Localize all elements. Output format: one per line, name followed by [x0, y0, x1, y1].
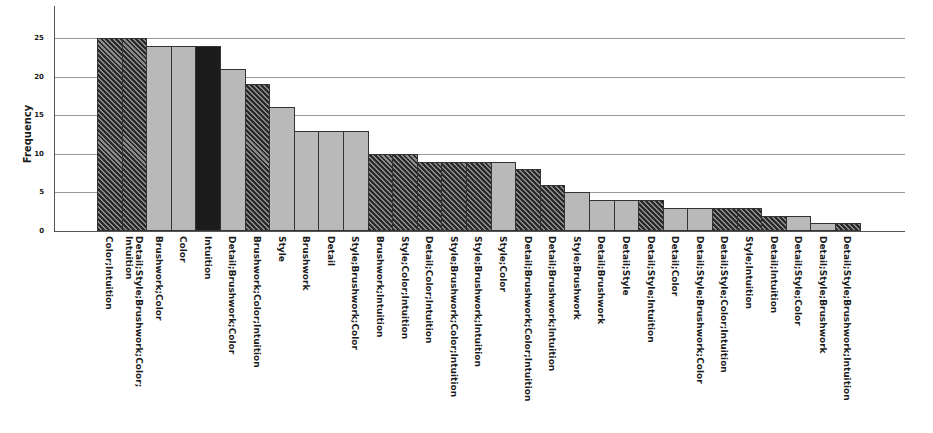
x-tick-label: Detail;Brushwork;Intuition: [547, 236, 557, 371]
x-tick-label: Style;Color;Intuition: [400, 236, 410, 339]
y-tick-label: 5: [30, 188, 44, 196]
x-tick-label: Style;Brushwork;Color: [350, 236, 360, 350]
x-tick-label: Detail;Color;Intuition: [424, 236, 434, 343]
bar: [122, 38, 148, 231]
x-tick-label: Detail;Brushwork: [596, 236, 606, 324]
x-tick-label: Detail;Brushwork;Color;Intuition: [523, 236, 533, 401]
bar: [466, 162, 492, 231]
x-tick-label: Detail;Brushwork;Color: [227, 236, 237, 354]
bar: [245, 84, 271, 231]
bar: [564, 192, 590, 231]
y-tick-label: 0: [30, 227, 44, 235]
bar: [761, 216, 787, 231]
x-tick-label: Detail;Style;Color;Intuition: [719, 236, 729, 373]
bar: [294, 131, 320, 231]
bar: [687, 208, 713, 231]
bar: [835, 223, 861, 231]
x-tick-label: Detail;Style;Color: [793, 236, 803, 326]
y-tick-label: 15: [30, 111, 44, 119]
x-tick-label: Brushwork;Intuition: [375, 236, 385, 338]
y-tick-label: 10: [30, 150, 44, 158]
x-tick-label: Style;Color: [498, 236, 508, 292]
bar: [392, 154, 418, 231]
bar: [638, 200, 664, 231]
bar: [417, 162, 443, 231]
bar: [663, 208, 689, 231]
bar: [195, 46, 221, 231]
x-tick-label: Brushwork;Color;Intuition: [252, 236, 262, 368]
x-tick-label: Detail;Style: [621, 236, 631, 296]
bar: [171, 46, 197, 231]
bar: [786, 216, 812, 231]
bar: [589, 200, 615, 231]
bar: [810, 223, 836, 231]
x-tick-label: Detail;Style;Brushwork;Color; Intuition: [124, 236, 144, 387]
x-tick-label: Detail;Style;Brushwork;Color: [695, 236, 705, 384]
bar: [318, 131, 344, 231]
x-tick-label: Style;Intuition: [744, 236, 754, 309]
x-tick-label: Detail;Style;Brushwork: [818, 236, 828, 354]
bar: [343, 131, 369, 231]
x-tick-label: Style;Brushwork;Color;Intuition: [449, 236, 459, 397]
x-tick-label: Color: [178, 236, 188, 263]
x-axis-line: [54, 231, 905, 232]
bar: [368, 154, 394, 231]
bar: [540, 185, 566, 231]
x-tick-label: Detail;Intuition: [769, 236, 779, 313]
x-tick-label: Color;Intuition: [104, 236, 114, 310]
bar: [515, 169, 541, 231]
y-tick-label: 25: [30, 34, 44, 42]
x-tick-label: Style;Brushwork: [572, 236, 582, 320]
x-tick-label: Style;Brushwork;Intuition: [473, 236, 483, 367]
x-tick-label: Brushwork: [301, 236, 311, 290]
frequency-bar-chart: Frequency 0510152025 Color;IntuitionDeta…: [0, 0, 933, 433]
x-tick-label: Detail;Style;Brushwork;Intuition: [842, 236, 852, 401]
bar: [712, 208, 738, 231]
bar: [146, 46, 172, 231]
x-tick-label: Detail;Color: [670, 236, 680, 296]
bar: [97, 38, 123, 231]
bar: [614, 200, 640, 231]
bar: [269, 107, 295, 231]
x-tick-label: Detail;Style;Intuition: [646, 236, 656, 343]
bar: [491, 162, 517, 231]
x-tick-label: Brushwork;Color: [154, 236, 164, 321]
bar: [737, 208, 763, 231]
x-tick-label: Intuition: [203, 236, 213, 280]
bar: [441, 162, 467, 231]
y-axis-line: [54, 6, 55, 231]
bar: [220, 69, 246, 231]
x-tick-label: Style: [277, 236, 287, 262]
gridline: [54, 38, 905, 39]
x-tick-label: Detail: [326, 236, 336, 266]
y-tick-label: 20: [30, 73, 44, 81]
